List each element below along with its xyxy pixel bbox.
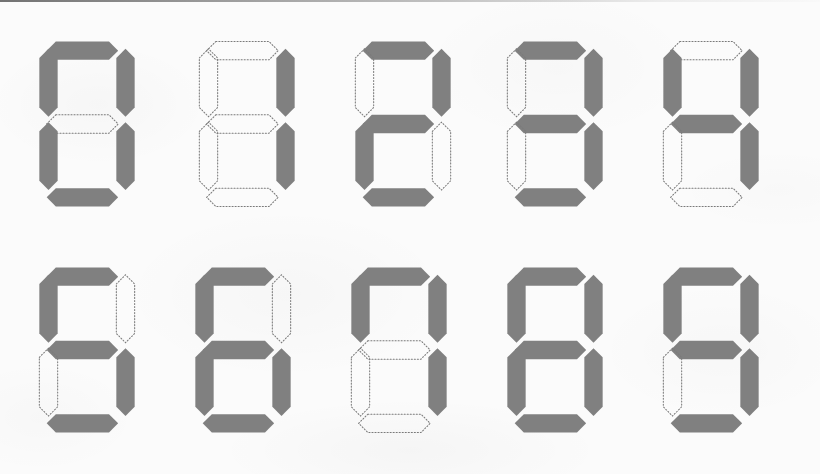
segment-bottom-left [39,348,57,416]
digit-zero-glyph [32,26,142,222]
segment-middle [203,341,274,359]
segment-top [515,268,587,286]
segment-top-left [663,49,681,117]
segment-middle [47,115,119,133]
segment-bottom-right [116,348,134,416]
segment-top-left [39,275,57,343]
segment-top [671,42,743,60]
segment-bottom-left [355,122,373,190]
segment-bottom-right [740,348,758,416]
segment-top-left [195,275,213,343]
segment-top-left [507,49,525,117]
digit-one [192,26,302,222]
segment-top-right [276,49,294,117]
segment-bottom-right [584,122,602,190]
segment-bottom [203,414,274,432]
segment-top-right [584,275,602,343]
segment-bottom-left [195,348,213,416]
segment-bottom-right [276,122,294,190]
digit-seven [344,252,454,448]
segment-top-left [355,49,373,117]
digit-nine [656,252,766,448]
digit-eight-glyph [500,252,610,448]
digit-zero [32,26,142,222]
segment-top [203,268,274,286]
segment-top-left [507,275,525,343]
segment-top [359,268,431,286]
segment-bottom [47,188,119,206]
digit-eight [500,252,610,448]
segment-bottom-left [663,348,681,416]
segment-bottom-right [272,348,290,416]
segment-bottom-right [428,348,446,416]
segment-top-right [584,49,602,117]
segment-top-right [116,49,134,117]
digit-seven-glyph [344,252,454,448]
segment-top-left [663,275,681,343]
segment-top [47,42,119,60]
segment-top-right [116,275,134,343]
segment-top [671,268,743,286]
digit-four [656,26,766,222]
digit-three-glyph [500,26,610,222]
segment-bottom [47,414,119,432]
digit-two-glyph [348,26,458,222]
segment-bottom-left [663,122,681,190]
segment-top-left [351,275,369,343]
digit-three [500,26,610,222]
digit-nine-glyph [656,252,766,448]
seven-segment-digit-sheet [0,0,820,474]
segment-bottom-right [432,122,450,190]
digit-four-glyph [656,26,766,222]
segment-bottom [359,414,431,432]
digit-two [348,26,458,222]
digit-five [32,252,142,448]
segment-bottom-right [584,348,602,416]
segment-top-right [740,275,758,343]
segment-top-right [432,49,450,117]
segment-bottom [363,188,435,206]
segment-bottom-left [39,122,57,190]
segment-bottom-left [507,348,525,416]
digit-one-glyph [192,26,302,222]
segment-bottom-right [116,122,134,190]
segment-top-right [272,275,290,343]
digit-grid [0,0,820,474]
digit-six [188,252,298,448]
digit-six-glyph [188,252,298,448]
segment-top [47,268,119,286]
segment-bottom [515,188,587,206]
segment-bottom [207,188,278,206]
segment-middle [363,115,435,133]
segment-top-right [428,275,446,343]
digit-five-glyph [32,252,142,448]
segment-top-right [740,49,758,117]
segment-bottom [515,414,587,432]
segment-bottom-right [740,122,758,190]
segment-bottom [671,414,743,432]
segment-top-left [39,49,57,117]
segment-middle [515,341,587,359]
segment-bottom-left [507,122,525,190]
segment-bottom [671,188,743,206]
